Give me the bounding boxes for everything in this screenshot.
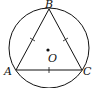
circumcircle xyxy=(9,8,89,88)
geometry-diagram: B A C O xyxy=(0,0,97,88)
label-b: B xyxy=(44,0,53,11)
label-o: O xyxy=(48,52,57,65)
label-a: A xyxy=(3,65,12,78)
label-c: C xyxy=(83,65,92,78)
